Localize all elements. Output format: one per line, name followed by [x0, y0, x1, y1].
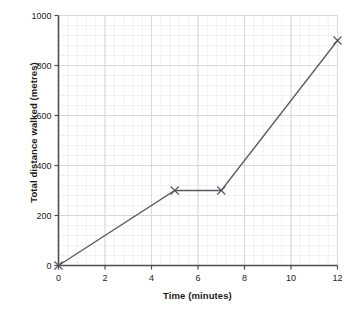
grid-major [59, 16, 338, 266]
svg-text:1000: 1000 [31, 11, 51, 21]
axis-tick-labels: 02468101202004006008001000 [31, 11, 342, 283]
svg-text:10: 10 [286, 273, 296, 283]
plot-area: 02468101202004006008001000 [0, 0, 353, 312]
line-chart: Total distance walked (metres) Time (min… [0, 0, 353, 312]
svg-text:6: 6 [195, 273, 200, 283]
svg-text:400: 400 [36, 161, 51, 171]
svg-text:8: 8 [242, 273, 247, 283]
svg-text:4: 4 [149, 273, 154, 283]
svg-text:0: 0 [56, 273, 61, 283]
svg-text:800: 800 [36, 61, 51, 71]
axis-ticks [55, 16, 338, 270]
svg-text:600: 600 [36, 111, 51, 121]
svg-text:200: 200 [36, 211, 51, 221]
svg-text:2: 2 [102, 273, 107, 283]
svg-text:0: 0 [46, 261, 51, 271]
svg-text:12: 12 [332, 273, 342, 283]
